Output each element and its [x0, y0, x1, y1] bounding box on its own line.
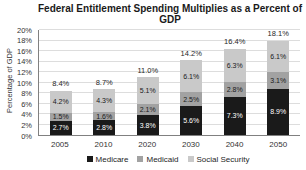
bar-segment-label: 5.1% — [140, 87, 156, 94]
legend-item-medicaid: Medicaid — [137, 155, 178, 164]
bar-segment-medicare: 8.9% — [267, 89, 289, 135]
bar-segment-social-security: 6.3% — [224, 49, 246, 82]
bar-segment-label: 5.6% — [183, 117, 199, 124]
legend-swatch-medicare — [87, 156, 93, 162]
bar-segment-social-security: 4.2% — [50, 91, 72, 113]
bar-column-2030: 14.2%6.1%2.5%5.6% — [170, 30, 214, 135]
bar-segment-social-security: 6.1% — [180, 60, 202, 92]
legend-item-social-security: Social Security — [188, 155, 250, 164]
x-tick-label: 2020 — [125, 140, 169, 150]
total-label: 8.4% — [52, 80, 69, 88]
bar-segment-medicare: 7.3% — [224, 97, 246, 135]
bar-column-2005: 8.4%4.2%1.5%2.7% — [39, 30, 83, 135]
bar-segment-medicaid: 1.5% — [50, 113, 72, 121]
bar-column-2010: 8.7%4.3%1.6%2.8% — [83, 30, 127, 135]
bar-segment-label: 1.5% — [53, 113, 69, 120]
bar-segment-social-security: 5.1% — [137, 77, 159, 104]
y-tick-label: 12% — [17, 69, 32, 77]
x-tick-label: 2050 — [256, 140, 300, 150]
bar-segment-medicare: 5.6% — [180, 106, 202, 135]
bar-segment-medicare: 2.8% — [93, 120, 115, 135]
bar-segment-label: 2.7% — [53, 124, 69, 131]
y-tick-label: 2% — [21, 122, 32, 130]
bar-segment-label: 2.1% — [140, 106, 156, 113]
y-tick-label: 16% — [17, 47, 32, 55]
x-tick-label: 2010 — [82, 140, 126, 150]
bar-segment-label: 3.1% — [270, 77, 286, 84]
y-tick-label: 20% — [17, 26, 32, 34]
legend: MedicareMedicaidSocial Security — [30, 153, 306, 165]
y-tick-label: 18% — [17, 37, 32, 45]
plot-area: 8.4%4.2%1.5%2.7%8.7%4.3%1.6%2.8%11.0%5.1… — [38, 30, 300, 136]
bar-segment-medicaid: 2.5% — [180, 92, 202, 105]
bar-segment-label: 6.3% — [227, 62, 243, 69]
x-tick-label: 2005 — [38, 140, 82, 150]
y-axis-ticks: 0%2%4%6%8%10%12%14%16%18%20% — [0, 30, 35, 136]
bar-segment-label: 6.1% — [183, 73, 199, 80]
total-label: 16.4% — [224, 38, 245, 46]
total-label: 18.1% — [268, 30, 289, 38]
bar-segment-label: 2.8% — [96, 124, 112, 131]
legend-swatch-medicaid — [137, 156, 143, 162]
total-label: 11.0% — [137, 67, 158, 75]
total-label: 14.2% — [181, 50, 202, 58]
y-tick-label: 8% — [21, 90, 32, 98]
x-axis-ticks: 200520102020203020402050 — [38, 140, 300, 150]
x-tick-label: 2040 — [213, 140, 257, 150]
chart-title: Federal Entitlement Spending Multiplies … — [38, 3, 302, 25]
y-tick-label: 10% — [17, 79, 32, 87]
bar-segment-social-security: 6.1% — [267, 41, 289, 73]
bar-segment-medicare: 3.8% — [137, 115, 159, 135]
bar-segment-medicaid: 2.1% — [137, 104, 159, 115]
total-label: 8.7% — [96, 79, 113, 87]
bar-segment-label: 3.8% — [140, 122, 156, 129]
legend-label-medicaid: Medicaid — [146, 155, 178, 164]
y-tick-label: 4% — [21, 111, 32, 119]
legend-label-social-security: Social Security — [197, 155, 250, 164]
y-tick-label: 0% — [21, 132, 32, 140]
bar-segment-label: 2.5% — [183, 96, 199, 103]
legend-item-medicare: Medicare — [87, 155, 129, 164]
bar-segment-label: 4.2% — [53, 98, 69, 105]
x-tick-label: 2030 — [169, 140, 213, 150]
chart-screen: Federal Entitlement Spending Multiplies … — [0, 0, 306, 170]
bar-segment-label: 2.8% — [227, 86, 243, 93]
bar-segment-label: 6.1% — [270, 53, 286, 60]
bar-segment-medicare: 2.7% — [50, 121, 72, 135]
y-tick-label: 14% — [17, 58, 32, 66]
bar-segment-medicaid: 3.1% — [267, 72, 289, 88]
bar-segment-medicaid: 2.8% — [224, 82, 246, 97]
legend-swatch-social-security — [188, 156, 194, 162]
bar-segment-label: 7.3% — [227, 112, 243, 119]
bar-segment-label: 1.6% — [96, 113, 112, 120]
bars-container: 8.4%4.2%1.5%2.7%8.7%4.3%1.6%2.8%11.0%5.1… — [39, 30, 300, 135]
bar-column-2020: 11.0%5.1%2.1%3.8% — [126, 30, 170, 135]
bar-segment-medicaid: 1.6% — [93, 112, 115, 120]
bar-column-2040: 16.4%6.3%2.8%7.3% — [213, 30, 257, 135]
y-tick-label: 6% — [21, 100, 32, 108]
legend-label-medicare: Medicare — [96, 155, 129, 164]
bar-segment-label: 8.9% — [270, 108, 286, 115]
bar-column-2050: 18.1%6.1%3.1%8.9% — [257, 30, 301, 135]
bar-segment-social-security: 4.3% — [93, 89, 115, 112]
bar-segment-label: 4.3% — [96, 97, 112, 104]
